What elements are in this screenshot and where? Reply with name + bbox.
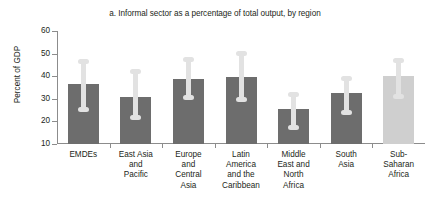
x-axis-tick bbox=[110, 144, 111, 148]
x-axis-label-line: America bbox=[215, 160, 268, 170]
x-axis-tick bbox=[320, 144, 321, 148]
error-bar-cap-bottom bbox=[288, 125, 299, 130]
chart-title: a. Informal sector as a percentage of to… bbox=[0, 9, 430, 18]
y-axis-tick-label-wrap: 20 bbox=[26, 121, 50, 122]
error-bar-cap-bottom bbox=[183, 95, 194, 100]
x-axis-tick bbox=[267, 144, 268, 148]
error-bar-cap-top bbox=[393, 58, 404, 63]
x-axis-label-line: Middle bbox=[267, 150, 320, 160]
x-axis-label-line: North bbox=[267, 170, 320, 180]
x-axis-label-line: Latin bbox=[215, 150, 268, 160]
error-bar-cap-bottom bbox=[236, 97, 247, 102]
x-axis-label-line: and bbox=[110, 160, 163, 170]
x-axis-label-line: Asia bbox=[162, 181, 215, 191]
error-bar-cap-bottom bbox=[341, 110, 352, 115]
y-axis-tick-label-wrap: 10 bbox=[26, 144, 50, 145]
error-bar-cap-top bbox=[236, 51, 247, 56]
x-axis-category-label: SouthAsia bbox=[320, 150, 373, 170]
error-bar bbox=[344, 76, 349, 114]
error-bar-cap-top bbox=[183, 57, 194, 62]
x-axis-label-line: Sub- bbox=[372, 150, 425, 160]
error-bar bbox=[81, 59, 86, 112]
chart-figure: a. Informal sector as a percentage of to… bbox=[0, 0, 430, 212]
error-bar-cap-top bbox=[78, 59, 89, 64]
error-bar-cap-bottom bbox=[78, 107, 89, 112]
x-axis-category-label: Sub-SaharanAfrica bbox=[372, 150, 425, 181]
x-axis-category-label: EuropeandCentralAsia bbox=[162, 150, 215, 191]
x-axis-label-line: Africa bbox=[267, 181, 320, 191]
plot-area bbox=[57, 31, 425, 144]
x-axis-label-line: South bbox=[320, 150, 373, 160]
error-bar-cap-top bbox=[341, 76, 352, 81]
x-axis-category-label: East AsiaandPacific bbox=[110, 150, 163, 181]
error-bar-cap-bottom bbox=[130, 115, 141, 120]
x-axis-label-line: East and bbox=[267, 160, 320, 170]
x-axis-label-line: Europe bbox=[162, 150, 215, 160]
y-axis-tick bbox=[52, 144, 57, 145]
x-axis-category-label: EMDEs bbox=[57, 150, 110, 160]
x-axis-label-line: Pacific bbox=[110, 170, 163, 180]
x-axis-label-line: Saharan bbox=[372, 160, 425, 170]
error-bar bbox=[186, 57, 191, 100]
y-axis-tick-label: 50 bbox=[26, 49, 50, 57]
error-bar-cap-bottom bbox=[393, 94, 404, 99]
y-axis-title: Percent of GDP bbox=[13, 25, 22, 125]
y-axis-tick-label: 60 bbox=[26, 27, 50, 35]
x-axis-label-line: Caribbean bbox=[215, 181, 268, 191]
error-bar bbox=[396, 58, 401, 99]
y-axis-tick-label-wrap: 30 bbox=[26, 99, 50, 100]
y-axis-tick-label: 30 bbox=[26, 95, 50, 103]
x-axis-label-line: Asia bbox=[320, 160, 373, 170]
error-bar-cap-top bbox=[288, 92, 299, 97]
x-axis-label-line: and the bbox=[215, 170, 268, 180]
x-axis-tick bbox=[162, 144, 163, 148]
error-bar-cap-top bbox=[130, 69, 141, 74]
y-axis-tick-label: 20 bbox=[26, 117, 50, 125]
y-axis-tick-label: 40 bbox=[26, 72, 50, 80]
y-axis-tick-label-wrap: 40 bbox=[26, 76, 50, 77]
x-axis-label-line: and bbox=[162, 160, 215, 170]
x-axis-label-line: Africa bbox=[372, 170, 425, 180]
x-axis-label-line: East Asia bbox=[110, 150, 163, 160]
x-axis-category-label: MiddleEast andNorthAfrica bbox=[267, 150, 320, 191]
error-bar bbox=[133, 69, 138, 120]
y-axis-tick-label-wrap: 50 bbox=[26, 54, 50, 55]
x-axis-tick bbox=[215, 144, 216, 148]
error-bar bbox=[239, 51, 244, 102]
x-axis-category-label: LatinAmericaand theCaribbean bbox=[215, 150, 268, 191]
x-axis-label-line: Central bbox=[162, 170, 215, 180]
y-axis-tick-label-wrap: 60 bbox=[26, 31, 50, 32]
y-axis-tick-label: 10 bbox=[26, 140, 50, 148]
x-axis-tick bbox=[372, 144, 373, 148]
error-bar bbox=[291, 92, 296, 130]
x-axis-label-line: EMDEs bbox=[57, 150, 110, 160]
